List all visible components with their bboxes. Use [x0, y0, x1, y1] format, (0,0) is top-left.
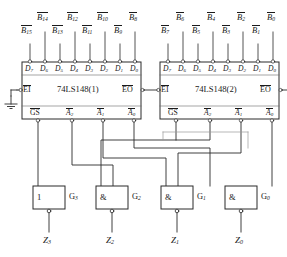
chip1-eo-label: EO — [122, 85, 133, 94]
input-label-b14: B14 — [37, 12, 48, 23]
chip1-pin-d4: D4 — [70, 65, 78, 73]
input-label-b5: B5 — [192, 25, 200, 36]
output-label-z1: Z1 — [171, 236, 179, 246]
input-label-b8: B8 — [129, 12, 137, 23]
chip2-pin-d2: D2 — [238, 65, 246, 73]
chip2-a2-label: A2 — [204, 108, 211, 117]
circuit-wiring-layer — [0, 0, 287, 257]
input-label-b9: B9 — [114, 25, 122, 36]
input-label-b0: B0 — [267, 12, 275, 23]
gate-g2-symbol: & — [100, 193, 107, 202]
gate-g1-symbol: & — [165, 193, 172, 202]
gate-g3-name: G3 — [69, 193, 78, 202]
chip1-a2-label: A2 — [66, 108, 73, 117]
chip2-pin-d6: D6 — [178, 65, 186, 73]
input-label-b2: B2 — [237, 12, 245, 23]
wire-chip1-a2 — [72, 122, 113, 186]
chip2-eo-bubble — [279, 88, 282, 91]
output-label-z3: Z3 — [43, 236, 51, 246]
chip2-a1-label: A1 — [235, 108, 242, 117]
chip1-ei-bubble — [19, 88, 22, 91]
chip2-pin-d4: D4 — [208, 65, 216, 73]
input-label-b6: B6 — [176, 12, 184, 23]
chip1-a0-label: A0 — [128, 108, 135, 117]
input-label-b7: B7 — [161, 25, 169, 36]
chip2-pin-d3: D3 — [223, 65, 231, 73]
chip2-ei-bubble — [157, 88, 160, 91]
chip1-ei-label: EI — [23, 85, 31, 94]
chip1-pin-d6: D6 — [40, 65, 48, 73]
circuit-diagram: B14 B12 B10 B8 B15 B13 B11 B9 B6 B4 B2 B… — [0, 0, 287, 257]
input-label-b3: B3 — [222, 25, 230, 36]
chip2-pin-d0: D0 — [268, 65, 276, 73]
input-label-b13: B13 — [52, 25, 63, 36]
input-label-b12: B12 — [67, 12, 78, 23]
chip1-pin-d3: D3 — [85, 65, 93, 73]
gate-g2-name: G2 — [132, 193, 141, 202]
input-label-b4: B4 — [207, 12, 215, 23]
gate-g2-output-bubble — [110, 209, 114, 213]
chip2-input-pins — [168, 32, 273, 60]
output-label-z2: Z2 — [106, 236, 114, 246]
input-label-b15: B15 — [21, 25, 32, 36]
input-label-b1: B1 — [252, 25, 260, 36]
chip1-pin-d1: D1 — [115, 65, 123, 73]
gate-g1-name: G1 — [197, 193, 206, 202]
input-label-b11: B11 — [82, 25, 92, 36]
chip2-ei-label: EI — [161, 85, 169, 94]
chip2-pin-d1: D1 — [253, 65, 261, 73]
chip1-a1-label: A1 — [97, 108, 104, 117]
wire-chip1-a1 — [103, 122, 166, 186]
chip2-a0-label: A0 — [266, 108, 273, 117]
input-label-b10: B10 — [97, 12, 108, 23]
chip2-pin-d7: D7 — [163, 65, 171, 73]
output-label-z0: Z0 — [235, 236, 243, 246]
gate-g1-output-bubble — [175, 209, 179, 213]
chip2-pin-d5: D5 — [193, 65, 201, 73]
chip2-name: 74LS148(2) — [195, 85, 237, 94]
chip2-gs-label: GS — [168, 108, 178, 117]
chip1-name: 74LS148(1) — [57, 85, 99, 94]
chip1-pin-d5: D5 — [55, 65, 63, 73]
gate-g0-output-bubble — [239, 209, 243, 213]
chip1-pin-d0: D0 — [130, 65, 138, 73]
ground-symbol — [5, 90, 17, 109]
chip1-eo-bubble — [141, 88, 144, 91]
chip2-eo-label: EO — [260, 85, 271, 94]
gate-g3-output-bubble — [47, 209, 51, 213]
chip1-gs-label: GS — [30, 108, 40, 117]
gate-g0-name: G0 — [261, 193, 270, 202]
chip1-pin-d2: D2 — [100, 65, 108, 73]
chip1-pin-d7: D7 — [25, 65, 33, 73]
gate-g0-symbol: & — [229, 193, 236, 202]
chip1-input-pins — [30, 32, 135, 60]
gate-g3-symbol: 1 — [37, 193, 41, 202]
